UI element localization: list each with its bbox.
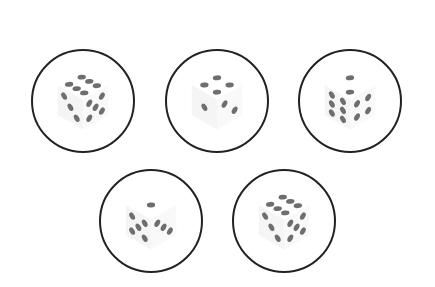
die-1	[32, 50, 134, 152]
pip-icon	[85, 79, 94, 85]
pip-icon	[346, 89, 355, 95]
pip-icon	[213, 89, 222, 95]
die-5	[233, 170, 335, 272]
pip-icon	[266, 202, 275, 208]
die-3	[299, 50, 401, 152]
pip-icon	[200, 82, 209, 88]
pip-icon	[72, 86, 81, 92]
pip-icon	[92, 83, 101, 89]
die-4	[100, 170, 202, 272]
dice-figure	[0, 0, 435, 287]
pip-icon	[147, 202, 156, 208]
pip-icon	[278, 194, 287, 200]
pip-icon	[225, 82, 234, 88]
pip-icon	[293, 203, 302, 209]
pip-icon	[281, 210, 290, 216]
pip-icon	[273, 206, 282, 212]
die-2	[166, 50, 268, 152]
pip-icon	[80, 90, 89, 96]
pip-icon	[286, 199, 295, 205]
pip-icon	[65, 82, 74, 88]
pip-icon	[77, 74, 86, 80]
pip-icon	[213, 75, 222, 81]
pip-icon	[346, 75, 355, 81]
